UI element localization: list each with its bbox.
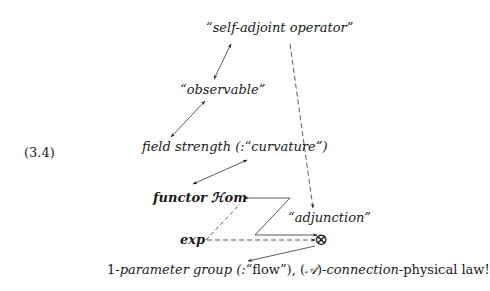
node-bottom-statement: 1-parameter group (:“flow”), (𝒜)-connect… bbox=[107, 262, 490, 278]
edge-observable-fieldstrength bbox=[171, 101, 205, 137]
node-exp: exp bbox=[180, 232, 205, 248]
edge-otimes-bottom bbox=[248, 246, 315, 261]
node-self-adjoint-operator: “self-adjoint operator” bbox=[206, 20, 353, 36]
edge-z-diagonal bbox=[255, 198, 290, 235]
equation-number: (3.4) bbox=[24, 145, 55, 161]
node-functor-hom: functor ℋom bbox=[153, 190, 247, 206]
bottom-part-4: 𝒜 bbox=[305, 262, 317, 277]
edge-selfadjoint-adjunction-dashed bbox=[290, 44, 313, 208]
node-observable: “observable” bbox=[180, 82, 265, 98]
bottom-part-2: parameter group (: bbox=[120, 262, 246, 277]
node-adjunction: “adjunction” bbox=[288, 210, 371, 226]
bottom-part-6: connection bbox=[326, 262, 398, 277]
edge-exp-functorhom-dashed bbox=[206, 204, 240, 240]
bottom-part-1: 1- bbox=[107, 262, 120, 277]
bottom-part-7: -physical law! bbox=[399, 262, 490, 277]
edge-selfadjoint-observable bbox=[214, 44, 231, 79]
otimes-icon: ⊗ bbox=[314, 231, 328, 248]
bottom-part-3: “flow”), ( bbox=[246, 262, 305, 277]
edge-fieldstrength-functorhom bbox=[193, 160, 247, 184]
node-field-strength: field strength (:“curvature”) bbox=[142, 139, 328, 155]
